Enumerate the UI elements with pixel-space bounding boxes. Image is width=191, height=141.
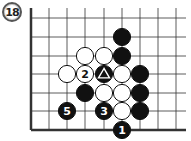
move-number: 2 [81, 68, 89, 81]
move-number: 3 [100, 105, 108, 118]
black-stone: 5 [58, 102, 75, 119]
black-stone [131, 65, 148, 82]
move-number: 5 [63, 105, 71, 118]
stones-layer: 2531 [58, 28, 148, 138]
black-stone [113, 28, 130, 45]
white-stone [58, 65, 75, 82]
black-stone: 3 [95, 102, 112, 119]
black-stone [95, 65, 112, 82]
black-stone: 1 [113, 121, 130, 138]
white-stone [113, 84, 130, 101]
white-stone [95, 47, 112, 64]
white-stone [113, 65, 130, 82]
black-stone [113, 47, 130, 64]
go-board: 2531 [0, 0, 191, 141]
white-stone: 2 [76, 65, 93, 82]
white-stone [95, 84, 112, 101]
black-stone [131, 102, 148, 119]
black-stone [76, 84, 93, 101]
black-stone [131, 84, 148, 101]
white-stone [113, 102, 130, 119]
white-stone [76, 47, 93, 64]
move-number: 1 [118, 124, 126, 137]
